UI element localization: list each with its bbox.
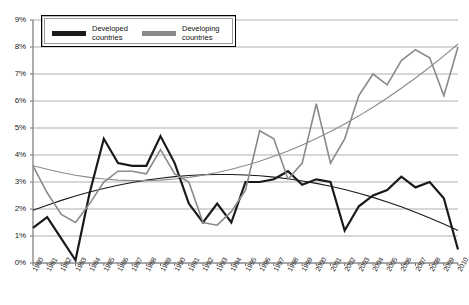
- y-axis-tick-label: 5%: [2, 123, 26, 132]
- y-axis-tick-label: 1%: [2, 231, 26, 240]
- axis-ticks: [30, 20, 458, 266]
- legend-label-developing: Developing countries: [182, 25, 220, 42]
- legend-label-developed: Developed countries: [92, 25, 128, 42]
- chart-legend: Developed countries Developing countries: [41, 15, 236, 47]
- legend-label-developing-line2: countries: [182, 33, 212, 42]
- y-axis-tick-label: 2%: [2, 204, 26, 213]
- y-axis-tick-label: 6%: [2, 96, 26, 105]
- data-series: [33, 47, 458, 260]
- trendline: [33, 44, 458, 181]
- y-axis-tick-label: 8%: [2, 42, 26, 51]
- legend-item-developing: Developing countries: [142, 25, 220, 42]
- y-axis-tick-label: 4%: [2, 150, 26, 159]
- legend-item-developed: Developed countries: [52, 25, 128, 42]
- y-axis-tick-label: 7%: [2, 69, 26, 78]
- legend-label-developed-line2: countries: [92, 33, 122, 42]
- legend-swatch-developing: [142, 31, 176, 36]
- legend-swatch-developed: [52, 31, 86, 36]
- y-axis-tick-label: 9%: [2, 15, 26, 24]
- y-axis-tick-label: 3%: [2, 177, 26, 186]
- y-axis-tick-label: 0%: [2, 258, 26, 267]
- gridlines: [33, 20, 458, 236]
